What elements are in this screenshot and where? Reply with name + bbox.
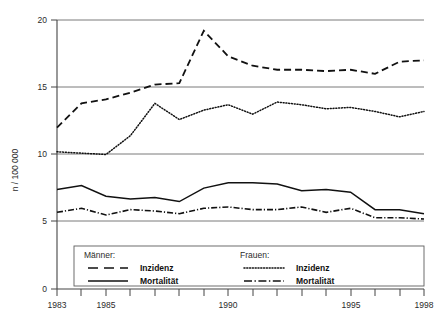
legend-label-maenner-mortalitaet: Mortalität [140, 276, 178, 286]
legend-label-frauen-inzidenz: Inzidenz [296, 263, 330, 273]
legend: Männer: Inzidenz Mortalität Frauen: Inzi… [74, 246, 424, 286]
y-tick-label-20: 20 [38, 15, 48, 25]
y-tick-label-5: 5 [42, 216, 47, 226]
series-line-frauen-mortalitaet [57, 207, 424, 219]
legend-label-maenner-inzidenz: Inzidenz [140, 263, 174, 273]
legend-group-title-maenner: Männer: [84, 250, 115, 260]
y-axis: 20 15 10 5 0 n / 100 000 [10, 15, 57, 294]
gridlines [57, 20, 424, 221]
chart-figure: 20 15 10 5 0 n / 100 000 1983 [0, 0, 445, 324]
x-tick-label-1998: 1998 [415, 300, 434, 310]
y-tick-label-10: 10 [38, 149, 48, 159]
y-tick-label-0: 0 [42, 284, 47, 294]
legend-group-title-frauen: Frauen: [240, 250, 269, 260]
series-layer [57, 31, 424, 219]
x-tick-label-1995: 1995 [342, 300, 361, 310]
x-tick-label-1985: 1985 [97, 300, 116, 310]
series-line-frauen-inzidenz [57, 102, 424, 154]
series-line-maenner-mortalitaet [57, 183, 424, 214]
series-line-maenner-inzidenz [57, 31, 424, 128]
legend-label-frauen-mortalitaet: Mortalität [296, 276, 334, 286]
x-axis: 1983 1985 1990 1995 1998 [48, 289, 434, 310]
x-tick-label-1990: 1990 [219, 300, 238, 310]
x-tick-label-1983: 1983 [48, 300, 67, 310]
line-chart: 20 15 10 5 0 n / 100 000 1983 [0, 0, 445, 324]
y-tick-label-15: 15 [38, 82, 48, 92]
y-axis-title: n / 100 000 [10, 148, 20, 191]
